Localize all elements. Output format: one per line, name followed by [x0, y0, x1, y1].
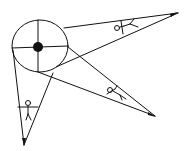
stick-figure-lower-right	[107, 86, 126, 100]
hub-circle	[12, 20, 68, 72]
center-dot	[33, 42, 43, 52]
upper-right-wedge	[56, 12, 178, 67]
hub-and-spoke-diagram	[0, 0, 189, 151]
bottom-wedge	[13, 50, 53, 146]
lower-right-wedge	[38, 47, 156, 117]
